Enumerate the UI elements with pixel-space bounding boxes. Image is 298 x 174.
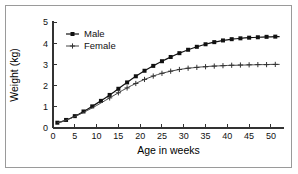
y-tick-label: 3 bbox=[43, 60, 48, 70]
datapoint-male bbox=[256, 35, 260, 39]
x-tick-label: 45 bbox=[244, 131, 254, 141]
series-line-female bbox=[57, 64, 279, 122]
datapoint-female bbox=[273, 62, 278, 67]
y-tick-label: 5 bbox=[43, 17, 48, 27]
x-tick-label: 10 bbox=[92, 131, 102, 141]
x-tick-label: 30 bbox=[179, 131, 189, 141]
datapoint-male bbox=[160, 59, 164, 63]
legend-marker-female bbox=[70, 43, 75, 48]
x-tick-label: 25 bbox=[157, 131, 167, 141]
datapoint-male bbox=[195, 45, 199, 49]
x-tick-label: 15 bbox=[113, 131, 123, 141]
x-tick-label: 40 bbox=[222, 131, 232, 141]
axis-titles: Age in weeksWeight (kg) bbox=[8, 48, 200, 156]
y-tick-label: 2 bbox=[43, 81, 48, 91]
series-female bbox=[57, 62, 279, 123]
y-tick-label: 4 bbox=[43, 39, 48, 49]
legend-item-female[interactable]: Female bbox=[66, 40, 116, 51]
datapoint-male bbox=[204, 42, 208, 46]
x-tick-label: 50 bbox=[266, 131, 276, 141]
datapoint-female bbox=[186, 66, 191, 71]
datapoint-female bbox=[194, 65, 199, 70]
datapoint-male bbox=[116, 87, 120, 91]
datapoint-female bbox=[116, 90, 121, 95]
datapoint-male bbox=[230, 37, 234, 41]
datapoint-female bbox=[238, 62, 243, 67]
legend-label-male: Male bbox=[84, 28, 105, 39]
datapoint-female bbox=[264, 62, 269, 67]
datapoint-female bbox=[229, 63, 234, 68]
datapoint-female bbox=[159, 71, 164, 76]
datapoint-female bbox=[247, 62, 252, 67]
datapoint-male bbox=[151, 64, 155, 68]
datapoint-female bbox=[220, 63, 225, 68]
y-tick-label: 1 bbox=[43, 102, 48, 112]
datapoint-female bbox=[124, 85, 129, 90]
datapoint-male bbox=[238, 36, 242, 40]
x-tick-label: 20 bbox=[135, 131, 145, 141]
datapoint-female bbox=[203, 64, 208, 69]
datapoint-male bbox=[125, 80, 129, 84]
datapoint-female bbox=[133, 81, 138, 86]
datapoint-male bbox=[247, 36, 251, 40]
legend-marker-male bbox=[71, 32, 75, 36]
datapoint-male bbox=[177, 51, 181, 55]
x-tick-label: 0 bbox=[50, 131, 55, 141]
growth-chart: 01234505101520253035404550 Age in weeksW… bbox=[0, 0, 298, 174]
datapoint-male bbox=[273, 35, 277, 39]
y-axis-title-text: Weight (kg) bbox=[8, 48, 20, 102]
datapoint-female bbox=[168, 69, 173, 74]
datapoint-female bbox=[177, 67, 182, 72]
legend: MaleFemale bbox=[66, 28, 116, 51]
datapoint-male bbox=[221, 38, 225, 42]
datapoint-female bbox=[151, 73, 156, 78]
x-tick-label: 5 bbox=[72, 131, 77, 141]
datapoint-female bbox=[255, 62, 260, 67]
legend-label-female: Female bbox=[84, 40, 116, 51]
datapoint-female bbox=[212, 63, 217, 68]
datapoint-male bbox=[186, 48, 190, 52]
datapoint-female bbox=[142, 77, 147, 82]
datapoint-male bbox=[212, 40, 216, 44]
y-tick-label: 0 bbox=[43, 123, 48, 133]
datapoint-male bbox=[134, 74, 138, 78]
x-axis-title-text: Age in weeks bbox=[137, 144, 199, 156]
datapoint-male bbox=[265, 35, 269, 39]
x-tick-label: 35 bbox=[201, 131, 211, 141]
datapoint-male bbox=[169, 55, 173, 59]
figure-root: 01234505101520253035404550 Age in weeksW… bbox=[0, 0, 298, 174]
datapoint-male bbox=[143, 69, 147, 73]
legend-item-male[interactable]: Male bbox=[66, 28, 105, 39]
